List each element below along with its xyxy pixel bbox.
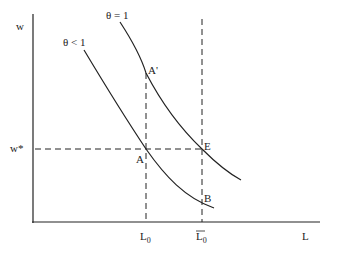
L0-label: L0 bbox=[140, 230, 151, 245]
wage-star-label: w* bbox=[10, 142, 23, 154]
point-A-label: A bbox=[136, 153, 144, 165]
curve-label-theta-less-than-1: θ < 1 bbox=[63, 36, 85, 48]
point-B-label: B bbox=[204, 192, 211, 204]
point-E-label: E bbox=[204, 140, 211, 152]
L0bar-label: L0 bbox=[196, 230, 207, 245]
labor-demand-diagram: w L w* θ < 1 θ = 1 A' A E B L0 L0 bbox=[0, 0, 337, 259]
x-axis-label: L bbox=[302, 230, 309, 242]
y-axis-label: w bbox=[16, 20, 24, 32]
curve-label-theta-equals-1: θ = 1 bbox=[106, 9, 128, 21]
point-A-prime-label: A' bbox=[148, 64, 158, 76]
